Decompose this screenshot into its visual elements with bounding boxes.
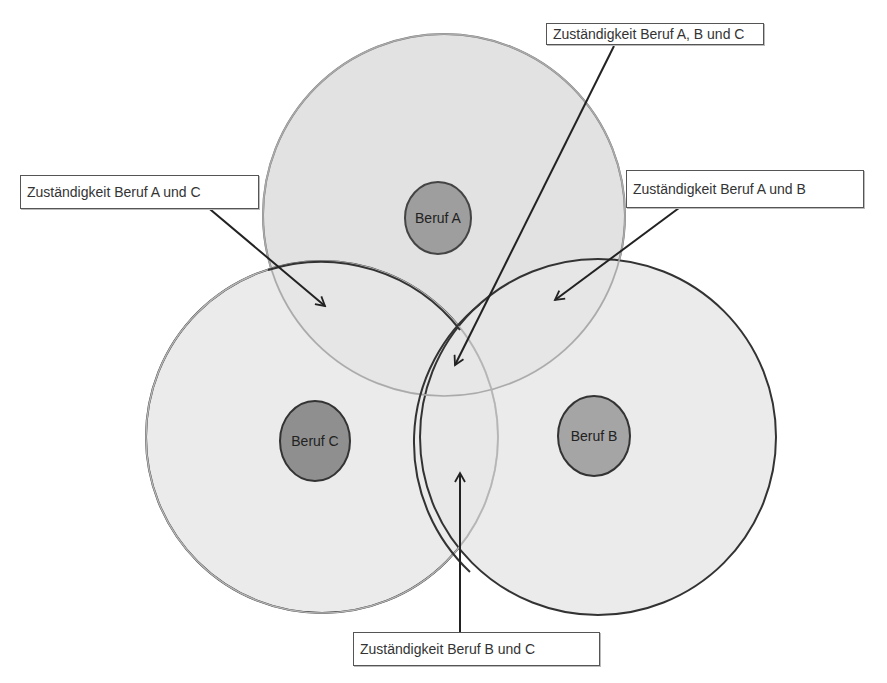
callout-abc-text: Zuständigkeit Beruf A, B und C [553, 27, 744, 41]
inner-circle-b-label: Beruf B [571, 428, 618, 444]
inner-circle-b: Beruf B [558, 396, 630, 476]
callout-ab: Zuständigkeit Beruf A und B [626, 170, 864, 208]
callout-ac: Zuständigkeit Beruf A und C [20, 175, 259, 209]
inner-circle-a-label: Beruf A [415, 210, 462, 226]
inner-circle-c-label: Beruf C [291, 433, 338, 449]
callout-ac-text: Zuständigkeit Beruf A und C [27, 185, 201, 199]
callout-bc-text: Zuständigkeit Beruf B und C [360, 642, 535, 656]
inner-circle-a: Beruf A [405, 182, 471, 254]
inner-circle-c: Beruf C [280, 401, 350, 481]
callout-ab-text: Zuständigkeit Beruf A und B [633, 182, 806, 196]
callout-bc: Zuständigkeit Beruf B und C [353, 632, 600, 666]
venn-diagram: Beruf A Beruf C Beruf B [0, 0, 887, 683]
callout-abc: Zuständigkeit Beruf A, B und C [546, 23, 764, 45]
